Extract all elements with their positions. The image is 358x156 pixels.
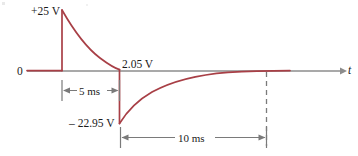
zero-label: 0 <box>17 65 23 77</box>
min-voltage-label: – 22.95 V <box>68 117 115 129</box>
scan-artifact <box>2 2 5 5</box>
second-interval-label: 10 ms <box>178 132 205 144</box>
first-interval-label: 5 ms <box>79 85 100 97</box>
mid-voltage-label: 2.05 V <box>122 58 154 70</box>
scan-artifact <box>86 4 88 6</box>
peak-voltage-label: +25 V <box>31 5 61 17</box>
voltage-waveform-figure: +25 V 0 2.05 V – 22.95 V t 5 ms 10 ms <box>0 0 358 156</box>
